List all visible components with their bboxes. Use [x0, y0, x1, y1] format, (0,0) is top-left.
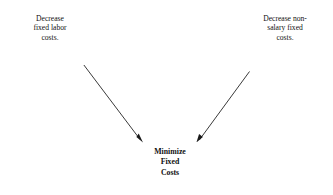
edge-right-to-bottom: [196, 72, 249, 143]
node-label: MinimizeFixedCosts: [151, 142, 189, 178]
diagram-canvas: Decreasefixed laborcosts. Decrease non-s…: [0, 0, 333, 195]
node-minimize-fixed-costs: MinimizeFixedCosts: [143, 142, 197, 188]
node-decrease-non-salary-fixed-costs: Decrease non-salary fixedcosts.: [249, 9, 321, 71]
edge-left-to-bottom: [84, 65, 144, 143]
node-decrease-fixed-labor-costs: Decreasefixed laborcosts.: [16, 9, 84, 65]
node-label: Decreasefixed laborcosts.: [29, 9, 70, 42]
node-label: Decrease non-salary fixedcosts.: [259, 9, 311, 42]
